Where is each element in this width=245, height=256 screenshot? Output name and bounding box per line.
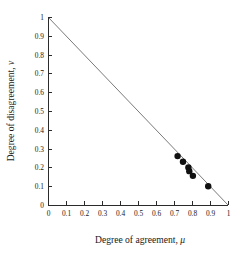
y-tick-label: 0.2: [35, 163, 45, 172]
y-tick-label: 0.3: [35, 145, 45, 154]
y-tick-label: 0.1: [35, 182, 45, 191]
x-tick-label: 0.8: [188, 209, 198, 218]
scatter-plot: 00.10.20.30.40.50.60.70.80.91 00.10.20.3…: [0, 0, 245, 256]
y-tick-label: 0.7: [35, 69, 45, 78]
x-axis-title: Degree of agreement, μ: [95, 234, 185, 245]
x-tick-label: 0.4: [116, 209, 126, 218]
y-axis-title: Degree of disagreement, ν: [5, 60, 16, 161]
y-tick-label: 0: [40, 201, 44, 210]
data-point: [174, 153, 180, 159]
chart-figure: 00.10.20.30.40.50.60.70.80.91 00.10.20.3…: [0, 0, 245, 256]
y-tick-label: 0.4: [35, 126, 45, 135]
x-tick-label: 0.3: [98, 209, 108, 218]
x-tick-label: 0.5: [134, 209, 144, 218]
y-tick-label: 0.9: [35, 32, 45, 41]
y-tick-label: 0.8: [35, 51, 45, 60]
y-tick-label: 0.6: [35, 88, 45, 97]
x-tick-label: 0.2: [80, 209, 90, 218]
x-tick-label: 0.9: [206, 209, 216, 218]
x-tick-label: 0: [47, 209, 51, 218]
y-tick-label: 0.5: [35, 107, 45, 116]
x-tick-label: 0.1: [62, 209, 72, 218]
data-point: [205, 183, 211, 189]
x-tick-label: 0.6: [152, 209, 162, 218]
y-tick-label: 1: [40, 13, 44, 22]
x-tick-label: 1: [227, 209, 231, 218]
data-point: [180, 159, 186, 165]
data-point: [190, 173, 196, 179]
x-tick-label: 0.7: [170, 209, 180, 218]
